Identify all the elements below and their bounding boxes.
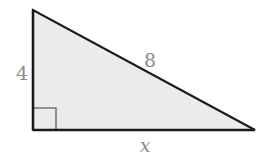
horizontal-leg-label: x xyxy=(140,134,151,156)
vertical-leg-label: 4 xyxy=(16,62,28,84)
hypotenuse-label: 8 xyxy=(144,49,156,71)
triangle-diagram: 4 8 x xyxy=(0,0,267,167)
